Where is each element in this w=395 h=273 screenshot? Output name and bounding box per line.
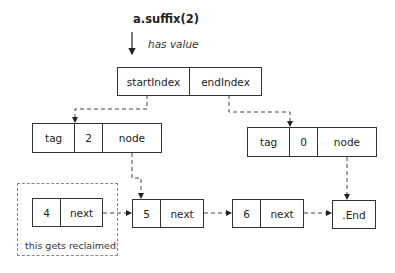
offset-field: 0 xyxy=(290,128,318,156)
node-field: node xyxy=(103,124,161,152)
substring-box: startIndex endIndex xyxy=(117,67,262,96)
node-next: next xyxy=(61,199,102,226)
node-value: 6 xyxy=(233,200,261,227)
reclaim-label: this gets reclaimed xyxy=(25,240,116,251)
start-index-box: tag 2 node xyxy=(32,123,162,153)
node-value: 4 xyxy=(33,199,61,226)
list-node-5: 5 next xyxy=(132,199,204,228)
call-label: a.suffix(2) xyxy=(133,12,199,26)
start-index-field: startIndex xyxy=(118,68,190,95)
end-node: .End xyxy=(332,200,376,229)
offset-field: 2 xyxy=(75,124,103,152)
node-next: next xyxy=(261,200,303,227)
tag-field: tag xyxy=(33,124,75,152)
list-node-4: 4 next xyxy=(32,198,103,227)
node-value: 5 xyxy=(133,200,161,227)
end-label: .End xyxy=(333,201,375,228)
end-index-field: endIndex xyxy=(190,68,261,95)
node-field: node xyxy=(318,128,376,156)
has-value-label: has value xyxy=(148,38,199,50)
node-next: next xyxy=(161,200,203,227)
tag-field: tag xyxy=(248,128,290,156)
end-index-box: tag 0 node xyxy=(247,127,377,157)
list-node-6: 6 next xyxy=(232,199,304,228)
